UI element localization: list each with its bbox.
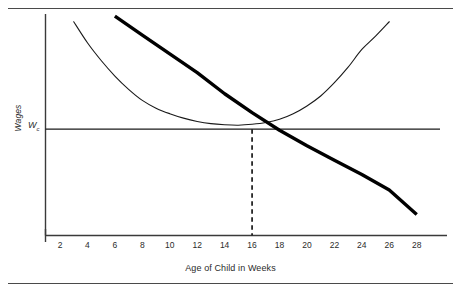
supply-curve-thin-u	[74, 22, 390, 125]
x-tick-label-28: 28	[406, 240, 428, 250]
x-tick-label-22: 22	[323, 240, 345, 250]
x-tick-label-16: 16	[241, 240, 263, 250]
x-tick-label-12: 12	[186, 240, 208, 250]
x-tick-label-6: 6	[104, 240, 126, 250]
x-tick-label-24: 24	[351, 240, 373, 250]
series-group	[46, 16, 441, 235]
x-axis-label: Age of Child in Weeks	[0, 263, 461, 273]
chart-figure: Wages Wc 246810121416182022242628 Age of…	[0, 0, 461, 291]
demand-curve-thick	[115, 16, 417, 214]
equilibrium-wage-annotation: Wc	[28, 120, 40, 132]
x-tick-label-10: 10	[159, 240, 181, 250]
x-tick-label-4: 4	[76, 240, 98, 250]
x-tick-label-8: 8	[131, 240, 153, 250]
wage-subscript: c	[37, 126, 40, 132]
x-tick-label-14: 14	[214, 240, 236, 250]
wage-symbol: W	[28, 120, 37, 130]
x-tick-label-2: 2	[49, 240, 71, 250]
y-axis-label: Wages	[13, 88, 23, 148]
axes-group	[46, 14, 448, 242]
x-tick-label-20: 20	[296, 240, 318, 250]
x-tick-label-26: 26	[378, 240, 400, 250]
x-tick-label-18: 18	[269, 240, 291, 250]
